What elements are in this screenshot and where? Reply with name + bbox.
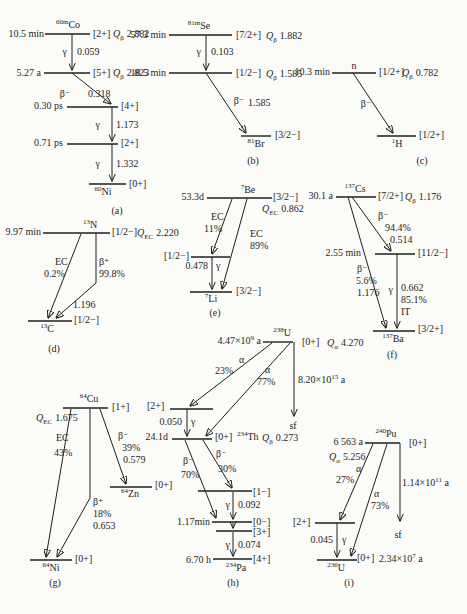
spin-parity: [0+] xyxy=(75,554,92,564)
scheme-c-lines xyxy=(332,73,416,136)
q-energy: 0.862 xyxy=(278,203,304,214)
nuclide: 64Ni xyxy=(43,563,60,573)
scheme-d-lines xyxy=(28,233,110,321)
halflife: 2.34×107 a xyxy=(379,554,423,564)
mass-number: 238 xyxy=(273,326,284,334)
gamma-energy: 1.332 xyxy=(116,159,139,169)
nuclide: 60Ni xyxy=(95,187,112,197)
spin-parity: [1/2+] xyxy=(419,130,444,140)
halflife: 4.47×109 a xyxy=(217,336,261,346)
scheme-caption: (d) xyxy=(48,344,60,354)
spin-parity: [7/2+] xyxy=(378,191,403,201)
branch-percent: 23% xyxy=(215,366,233,376)
gamma: γ xyxy=(96,159,100,169)
nuclide: 234Th xyxy=(237,432,259,442)
spin-parity: [0+] xyxy=(357,553,374,563)
spin-parity: [1/2+] xyxy=(379,67,404,77)
beta-energy: 1.585 xyxy=(248,98,271,108)
q-value: Qβ1.882 xyxy=(266,31,302,41)
q-energy: 5.256 xyxy=(340,451,366,462)
nuclide: 64Cu xyxy=(80,394,99,404)
element-symbol: C xyxy=(47,323,54,334)
element-symbol: H xyxy=(395,138,402,149)
scheme-caption: (b) xyxy=(247,156,259,166)
nuclide: 81mSe xyxy=(188,21,210,31)
mass-number: 234 xyxy=(226,561,237,569)
q-energy: 1.176 xyxy=(416,191,442,202)
branch-percent: 77% xyxy=(257,377,275,387)
nuclide: 234Pa xyxy=(226,563,247,573)
branch-percent: 99.8% xyxy=(99,269,125,279)
beta-arrow xyxy=(353,73,393,133)
element-symbol: Cs xyxy=(355,183,366,194)
beta-plus: β⁺ xyxy=(99,257,109,267)
beta-energy: 1.176 xyxy=(357,288,380,298)
mass-number: 234 xyxy=(237,430,248,438)
beta-minus: β⁻ xyxy=(378,211,388,221)
spin-parity: [0+] xyxy=(155,480,172,490)
branch-percent: 30% xyxy=(218,464,236,474)
q-energy: 4.270 xyxy=(338,337,364,348)
element-symbol: Pu xyxy=(386,428,397,439)
nuclide: 7Be xyxy=(241,185,256,195)
mass-number: 81 xyxy=(248,137,255,145)
q-value: Qβ0.273 xyxy=(262,433,298,443)
element-symbol: U xyxy=(284,327,291,338)
gamma: γ xyxy=(216,261,220,271)
gamma: γ xyxy=(226,500,230,510)
ec-label: EC xyxy=(55,257,68,267)
branch-percent: 11% xyxy=(204,224,222,234)
spin-parity: [5+] xyxy=(93,68,110,78)
q-value: Qβ0.782 xyxy=(402,68,438,78)
spin-parity: [3/2−] xyxy=(275,130,300,140)
element-symbol: Li xyxy=(208,293,217,304)
spin-parity: [0+] xyxy=(409,438,426,448)
q-value: Qα5.256 xyxy=(329,452,365,462)
mass-number: 81m xyxy=(188,19,200,27)
halflife: 10.3 min xyxy=(294,67,330,77)
gamma: γ xyxy=(63,47,67,57)
scheme-caption: (h) xyxy=(227,578,239,588)
ec-label: EC xyxy=(56,433,69,443)
q-energy: 0.273 xyxy=(273,432,299,443)
halflife: 0.30 ps xyxy=(34,101,63,111)
halflife: 2.55 min xyxy=(325,248,361,258)
branch-percent: 94.4% xyxy=(385,223,411,233)
mass-number: 64 xyxy=(43,561,50,569)
element-symbol: Th xyxy=(248,431,259,442)
spin-parity: [0+] xyxy=(302,337,319,347)
q-subscript: EC xyxy=(269,209,278,217)
element-symbol: Se xyxy=(200,20,210,31)
element-symbol: Ba xyxy=(393,333,404,344)
spin-parity: [11/2−] xyxy=(418,248,448,258)
gamma: γ xyxy=(342,535,346,545)
beta-plus: β⁺ xyxy=(93,497,103,507)
nuclide: 60mCo xyxy=(56,20,80,30)
mass-number: 13 xyxy=(83,218,90,226)
spin-parity: [3/2−] xyxy=(273,192,298,202)
spin-parity: [1/2−] xyxy=(236,68,261,78)
q-energy: 0.782 xyxy=(413,67,439,78)
spin-parity: [1−] xyxy=(253,487,270,497)
halflife: 8.20×1015 a xyxy=(298,375,345,385)
gamma-energy: 0.478 xyxy=(186,261,209,271)
spin-parity: [3/2+] xyxy=(418,324,443,334)
spin-parity: [0+] xyxy=(129,179,146,189)
gamma: γ xyxy=(226,540,230,550)
halflife: 30.1 a xyxy=(309,191,333,201)
element-symbol: Cu xyxy=(87,393,99,404)
branch-percent: 5.6% xyxy=(356,276,377,286)
q-value: QEC2.220 xyxy=(137,228,179,238)
ec-label: EC xyxy=(250,229,263,239)
element-symbol: U xyxy=(338,562,345,573)
halflife: 53.3d xyxy=(182,192,205,202)
q-value: QEC1.675 xyxy=(36,413,78,423)
halflife: 9.97 min xyxy=(5,227,41,237)
spin-parity: [2+] xyxy=(293,517,310,527)
branch-percent: 73% xyxy=(371,501,389,511)
mass-number: 60m xyxy=(56,18,68,26)
spin-parity: [7/2+] xyxy=(236,30,261,40)
nuclide: 240Pu xyxy=(375,429,396,439)
decay-schemes-figure: 10.5 min 60mCo [2+] Qβ2.882 γ 0.059 5.27… xyxy=(0,0,467,614)
beta-minus: β⁻ xyxy=(183,456,193,466)
